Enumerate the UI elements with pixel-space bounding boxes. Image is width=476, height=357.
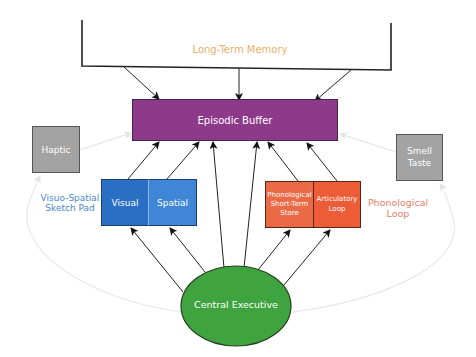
phonological-store-label-line2: Short-Term [271, 200, 309, 209]
phonological-loop-label: Phonological Loop [362, 198, 434, 220]
phonological-store-node: Phonological Short-Term Store [265, 181, 314, 228]
phonological-store-label-line1: Phonological [267, 191, 311, 200]
haptic-to-buffer-arrow [80, 133, 131, 150]
central-executive-label: Central Executive [186, 300, 286, 311]
articulatory-label-line1: Articulatory [317, 195, 358, 204]
smell-taste-node: Smell Taste [396, 134, 443, 181]
phonological-loop-label-line2: Loop [362, 209, 434, 220]
haptic-label: Haptic [42, 145, 71, 155]
haptic-node: Haptic [32, 126, 80, 173]
visuo-spatial-label-line2: Sketch Pad [38, 203, 102, 213]
episodic-buffer-node: Episodic Buffer [132, 99, 338, 141]
articulatory-loop-node: Articulatory Loop [313, 181, 361, 228]
spatial-label: Spatial [157, 198, 188, 208]
smell-label: Smell [407, 146, 432, 158]
articulatory-label-line2: Loop [329, 205, 346, 214]
spatial-node: Spatial [149, 179, 197, 226]
visual-label: Visual [112, 198, 139, 208]
visuo-spatial-label-line1: Visuo-Spatial [38, 193, 102, 203]
phonological-store-label-line3: Store [280, 209, 299, 218]
visual-node: Visual [101, 179, 149, 226]
visuo-spatial-label: Visuo-Spatial Sketch Pad [38, 193, 102, 214]
long-term-memory-label: Long-Term Memory [150, 44, 330, 56]
taste-label: Taste [408, 158, 431, 170]
episodic-buffer-label: Episodic Buffer [198, 115, 273, 126]
smell-to-buffer-arrow [340, 134, 396, 152]
